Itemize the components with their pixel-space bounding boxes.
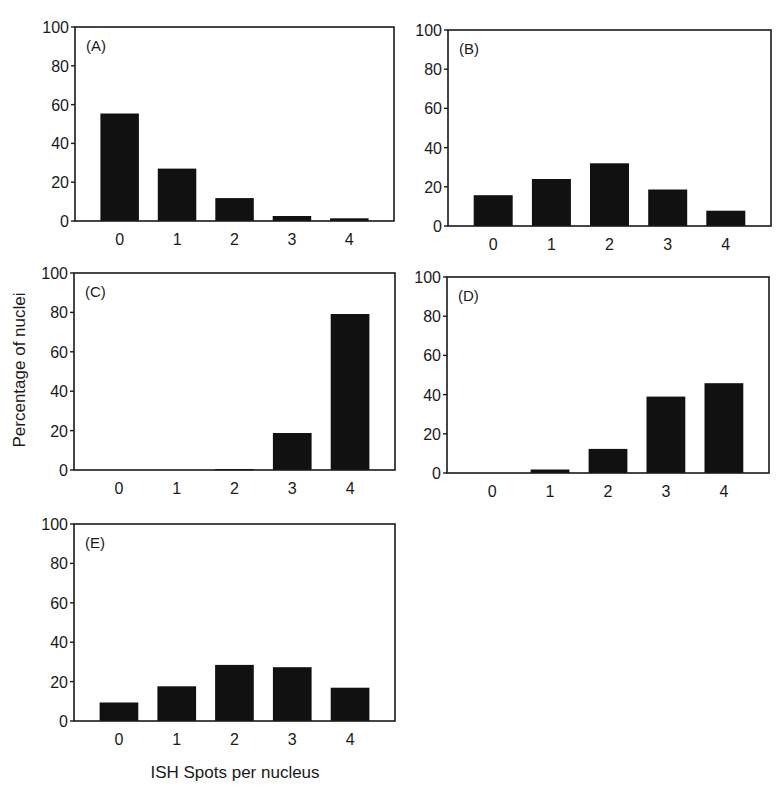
y-tick-label: 20 <box>50 674 68 691</box>
y-tick-label: 20 <box>424 179 442 196</box>
y-tick-label: 80 <box>51 58 69 75</box>
panel-e: 01234020406080100(E) <box>41 516 395 748</box>
bar <box>648 190 687 227</box>
bar <box>706 211 745 226</box>
y-tick-label: 100 <box>42 19 69 36</box>
x-tick-label: 0 <box>114 731 123 748</box>
y-tick-label: 20 <box>423 426 441 443</box>
y-tick-label: 100 <box>41 265 68 282</box>
bar <box>590 163 629 226</box>
bar <box>100 114 138 222</box>
y-tick-label: 40 <box>424 140 442 157</box>
y-tick-label: 60 <box>50 344 68 361</box>
x-tick-label: 1 <box>172 480 181 497</box>
bar <box>215 198 254 221</box>
panel-a: 01234020406080100(A) <box>42 19 394 248</box>
figure: 01234020406080100(A)01234020406080100(B)… <box>0 0 780 793</box>
bar <box>273 667 312 721</box>
y-tick-label: 60 <box>424 100 442 117</box>
bar <box>215 665 254 721</box>
panel-label: (A) <box>86 37 106 54</box>
y-tick-label: 0 <box>59 713 68 730</box>
y-tick-label: 0 <box>433 218 442 235</box>
y-tick-label: 100 <box>415 22 442 39</box>
y-tick-label: 60 <box>50 595 68 612</box>
y-tick-label: 80 <box>50 304 68 321</box>
x-tick-label: 1 <box>547 236 556 253</box>
bar <box>273 433 312 470</box>
bar <box>157 686 196 721</box>
x-tick-label: 1 <box>172 731 181 748</box>
x-tick-label: 2 <box>605 236 614 253</box>
panel-label: (E) <box>85 534 105 551</box>
x-tick-label: 2 <box>604 483 613 500</box>
bar <box>331 688 370 721</box>
y-tick-label: 60 <box>423 347 441 364</box>
y-tick-label: 80 <box>423 308 441 325</box>
panel-label: (B) <box>459 40 479 57</box>
y-tick-label: 20 <box>50 423 68 440</box>
bar <box>474 195 513 226</box>
x-tick-label: 4 <box>346 731 355 748</box>
y-tick-label: 80 <box>50 555 68 572</box>
y-tick-label: 40 <box>50 634 68 651</box>
x-tick-label: 4 <box>345 231 354 248</box>
y-tick-label: 20 <box>51 174 69 191</box>
x-tick-label: 2 <box>230 480 239 497</box>
y-tick-label: 40 <box>423 387 441 404</box>
x-tick-label: 2 <box>230 231 239 248</box>
y-tick-label: 40 <box>50 383 68 400</box>
y-tick-label: 60 <box>51 97 69 114</box>
x-tick-label: 4 <box>719 483 728 500</box>
x-tick-label: 1 <box>173 231 182 248</box>
x-tick-label: 1 <box>546 483 555 500</box>
bar <box>331 314 370 470</box>
bar <box>532 179 571 226</box>
x-axis-label: ISH Spots per nucleus <box>150 763 319 783</box>
y-tick-label: 0 <box>60 213 69 230</box>
bar <box>100 703 139 722</box>
x-tick-label: 2 <box>230 731 239 748</box>
x-tick-label: 3 <box>288 731 297 748</box>
x-tick-label: 4 <box>721 236 730 253</box>
x-tick-label: 3 <box>288 480 297 497</box>
x-tick-label: 0 <box>114 480 123 497</box>
bar <box>705 383 744 473</box>
x-tick-label: 3 <box>287 231 296 248</box>
y-tick-label: 0 <box>59 462 68 479</box>
y-tick-label: 0 <box>432 465 441 482</box>
x-tick-label: 3 <box>662 483 671 500</box>
chart-canvas: 01234020406080100(A)01234020406080100(B)… <box>0 0 780 793</box>
x-tick-label: 0 <box>489 236 498 253</box>
y-tick-label: 100 <box>41 516 68 533</box>
y-axis-label: Percentage of nuclei <box>10 293 30 448</box>
panel-b: 01234020406080100(B) <box>415 22 771 253</box>
panel-d: 01234020406080100(D) <box>414 269 769 500</box>
panel-c: 01234020406080100(C) <box>41 265 395 497</box>
y-tick-label: 40 <box>51 135 69 152</box>
bar <box>158 169 197 221</box>
panel-label: (C) <box>85 283 106 300</box>
bar <box>647 397 686 473</box>
panel-label: (D) <box>458 287 479 304</box>
x-tick-label: 4 <box>346 480 355 497</box>
x-tick-label: 0 <box>115 231 124 248</box>
y-tick-label: 100 <box>414 269 441 286</box>
y-tick-label: 80 <box>424 61 442 78</box>
bar <box>589 449 628 473</box>
x-tick-label: 3 <box>663 236 672 253</box>
x-tick-label: 0 <box>488 483 497 500</box>
